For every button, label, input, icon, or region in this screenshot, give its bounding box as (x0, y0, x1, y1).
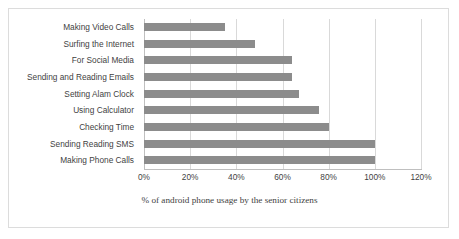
category-label: Using Calculator (73, 102, 134, 119)
bar-row (144, 36, 421, 53)
category-label: Setting Alam Clock (64, 86, 134, 103)
x-tick-label: 120% (410, 172, 431, 182)
bar (144, 123, 329, 131)
bar-row (144, 52, 421, 69)
x-tick-label: 40% (228, 172, 245, 182)
bar (144, 106, 319, 114)
x-axis-tick-labels: 0%20%40%60%80%100%120% (144, 172, 421, 186)
category-label: Surfing the Internet (63, 36, 134, 53)
bar-row (144, 136, 421, 153)
category-label: Checking Time (79, 119, 134, 136)
bar (144, 156, 375, 164)
bar (144, 140, 375, 148)
x-tick-label: 80% (320, 172, 337, 182)
x-tick-label: 60% (274, 172, 291, 182)
category-label: Making Video Calls (63, 19, 134, 36)
x-tick-label: 20% (182, 172, 199, 182)
x-axis-title: % of android phone usage by the senior c… (9, 195, 450, 205)
bar (144, 40, 255, 48)
gridline-120% (421, 19, 422, 169)
category-label: Sending and Reading Emails (27, 69, 134, 86)
x-tick-label: 0% (138, 172, 150, 182)
x-tick-label: 100% (364, 172, 385, 182)
bar (144, 56, 292, 64)
bar-row (144, 119, 421, 136)
x-axis-line (144, 169, 422, 170)
bar (144, 90, 299, 98)
category-label: Sending Reading SMS (50, 136, 134, 153)
bar-row (144, 19, 421, 36)
bar-row (144, 69, 421, 86)
bar-series (144, 19, 421, 169)
bar (144, 73, 292, 81)
bar-row (144, 102, 421, 119)
bar-row (144, 152, 421, 169)
plot-area (144, 19, 421, 169)
y-axis-category-labels: Making Video CallsSurfing the InternetFo… (9, 19, 140, 169)
category-label: Making Phone Calls (60, 152, 134, 169)
category-label: For Social Media (72, 52, 134, 69)
bar-row (144, 86, 421, 103)
bar (144, 23, 225, 31)
chart-container: Making Video CallsSurfing the InternetFo… (8, 8, 449, 228)
